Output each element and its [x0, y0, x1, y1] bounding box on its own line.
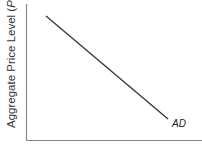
- ad-curve: [46, 16, 168, 119]
- chart: AD Aggregate Price Level (P): [0, 0, 202, 151]
- ad-curve-label: AD: [171, 118, 186, 129]
- y-axis-label: Aggregate Price Level (P): [5, 0, 17, 128]
